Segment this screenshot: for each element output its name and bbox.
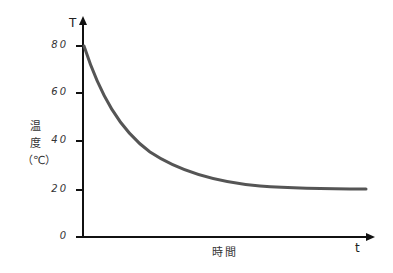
y-tick-label-20: 20 <box>38 183 68 194</box>
temperature-curve <box>84 46 366 189</box>
y-axis-label-part-2: 度 <box>22 135 48 152</box>
y-tick-label-60: 60 <box>38 86 68 97</box>
y-axis-label: 温 度 （℃） <box>22 118 48 169</box>
y-axis-arrow-icon <box>79 16 87 25</box>
x-axis-arrow-icon <box>366 233 375 241</box>
y-axis-label-part-3: （℃） <box>22 152 48 169</box>
x-axis-symbol: t <box>355 241 360 255</box>
y-tick-label-80: 80 <box>38 39 68 50</box>
y-axis-label-part-1: 温 <box>22 118 48 135</box>
y-tick-label-0: 0 <box>38 230 68 241</box>
x-axis-label: 時間 <box>212 243 238 259</box>
y-axis-symbol: T <box>69 16 76 30</box>
y-ticks <box>76 46 83 190</box>
